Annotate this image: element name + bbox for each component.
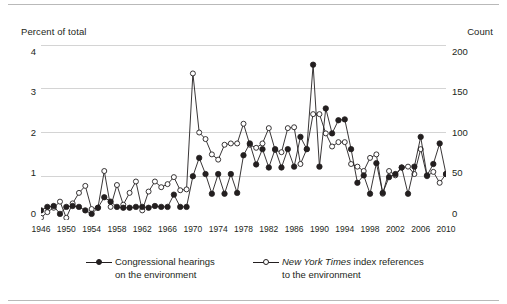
data-point — [367, 191, 372, 196]
data-point — [70, 203, 75, 208]
data-point — [298, 162, 303, 167]
y-axis-left-tick-3: 3 — [10, 86, 36, 97]
data-point — [311, 112, 316, 117]
data-point — [159, 204, 164, 209]
data-point — [437, 180, 442, 185]
legend-marker-open-circle-icon — [253, 257, 279, 267]
data-point — [89, 211, 94, 216]
data-point — [443, 171, 446, 176]
data-point — [234, 190, 239, 195]
legend-entry-congressional-hearings: Congressional hearings on the environmen… — [86, 256, 215, 281]
data-point — [127, 205, 132, 210]
data-point — [209, 152, 214, 157]
data-point — [323, 131, 328, 136]
data-point — [222, 142, 227, 147]
data-point — [355, 164, 360, 169]
data-point — [336, 140, 341, 145]
data-point — [330, 144, 335, 149]
data-point — [83, 183, 88, 188]
data-point — [114, 183, 119, 188]
x-axis-tick-2002: 2002 — [386, 224, 405, 234]
data-point — [228, 171, 233, 176]
x-axis-tick-1950: 1950 — [57, 224, 76, 234]
x-axis-tick-2006: 2006 — [411, 224, 430, 234]
data-point — [108, 204, 113, 209]
data-point — [222, 191, 227, 196]
data-point — [41, 208, 44, 213]
data-point — [83, 208, 88, 213]
y-axis-left-tick-1: 1 — [10, 167, 36, 178]
y-axis-left-tick-0: 0 — [10, 208, 36, 219]
y-axis-left-tick-2: 2 — [10, 127, 36, 138]
data-point — [349, 162, 354, 167]
top-divider-rule — [8, 4, 499, 5]
legend-label-nyt-title: New York Times — [282, 256, 351, 267]
data-point — [342, 140, 347, 145]
data-point — [127, 190, 132, 195]
data-point — [361, 173, 366, 178]
data-point — [374, 152, 379, 157]
x-axis-tick-1962: 1962 — [133, 224, 152, 234]
chart-legend: Congressional hearings on the environmen… — [0, 256, 507, 296]
series-hearings — [41, 62, 446, 217]
legend-label-nyt-line1: New York Times index references — [282, 256, 424, 269]
data-point — [285, 126, 290, 131]
x-axis-tick-1990: 1990 — [310, 224, 329, 234]
data-point — [64, 215, 69, 220]
y-axis-right-tick-150: 150 — [452, 86, 486, 97]
data-point — [406, 164, 411, 169]
data-point — [241, 121, 246, 126]
data-point — [95, 205, 100, 210]
data-point — [165, 182, 170, 187]
environment-attention-chart: Percent of total Count 4 3 2 1 0 200 150… — [0, 0, 507, 304]
right-axis-caption: Count — [467, 26, 493, 37]
data-point — [317, 164, 322, 169]
data-point — [197, 155, 202, 160]
data-point — [133, 179, 138, 184]
data-point — [424, 173, 429, 178]
data-point — [203, 171, 208, 176]
data-point — [140, 204, 145, 209]
x-axis-tick-1998: 1998 — [361, 224, 380, 234]
data-point — [291, 164, 296, 169]
data-point — [266, 126, 271, 131]
data-point — [292, 125, 297, 130]
data-point — [368, 155, 373, 160]
data-point — [64, 204, 69, 209]
data-point — [431, 169, 436, 174]
data-point — [348, 146, 353, 151]
data-point — [342, 117, 347, 122]
data-point — [171, 192, 176, 197]
data-point — [241, 153, 246, 158]
y-axis-left-tick-4: 4 — [10, 46, 36, 57]
data-point — [171, 175, 176, 180]
data-point — [57, 211, 62, 216]
data-point — [260, 146, 265, 151]
data-point — [146, 189, 151, 194]
data-point — [203, 137, 208, 142]
data-point — [184, 187, 189, 192]
x-axis-tick-2010: 2010 — [437, 224, 456, 234]
data-point — [285, 146, 290, 151]
data-point — [266, 165, 271, 170]
data-point — [159, 185, 164, 190]
data-point — [215, 171, 220, 176]
x-axis-tick-1994: 1994 — [335, 224, 354, 234]
x-axis-tick-1982: 1982 — [259, 224, 278, 234]
data-point — [437, 141, 442, 146]
data-point — [190, 174, 195, 179]
data-point — [45, 210, 50, 215]
data-point — [76, 204, 81, 209]
data-point — [374, 160, 379, 165]
x-axis-tick-1970: 1970 — [183, 224, 202, 234]
data-point — [76, 190, 81, 195]
data-point — [178, 204, 183, 209]
data-point — [336, 118, 341, 123]
data-point — [102, 195, 107, 200]
data-point — [387, 169, 392, 174]
y-axis-right-tick-100: 100 — [452, 127, 486, 138]
data-point — [121, 205, 126, 210]
data-point — [253, 162, 258, 167]
legend-label-hearings-line1: Congressional hearings — [115, 256, 215, 269]
data-point — [317, 112, 322, 117]
